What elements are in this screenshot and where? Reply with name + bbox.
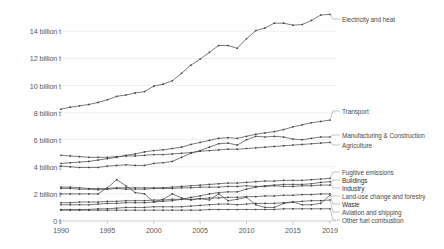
data-point	[97, 167, 99, 169]
data-point	[107, 209, 109, 211]
data-point	[320, 182, 322, 184]
series-label-other-fuel-combustion[interactable]: Other fuel combustion	[342, 217, 403, 224]
data-point	[264, 185, 266, 187]
data-point	[69, 155, 71, 157]
data-point	[227, 182, 229, 184]
data-point	[255, 133, 257, 135]
data-point	[218, 137, 220, 139]
data-point	[116, 179, 118, 181]
series-line-3	[61, 142, 330, 157]
data-point	[255, 30, 257, 32]
data-point	[236, 47, 238, 49]
data-point	[88, 193, 90, 195]
data-point	[144, 151, 146, 153]
data-point	[153, 154, 155, 156]
data-point	[97, 159, 99, 161]
data-point	[227, 142, 229, 144]
series-label-fugitive-emissions[interactable]: Fugitive emissions	[342, 169, 394, 176]
data-point	[134, 155, 136, 157]
data-point	[320, 184, 322, 186]
data-point	[153, 199, 155, 201]
series-label-aviation-and-shipping[interactable]: Aviation and shipping	[342, 209, 402, 216]
data-point	[311, 143, 313, 145]
data-point	[246, 38, 248, 40]
data-point	[301, 144, 303, 146]
y-tick-label-8: 8 billion t	[34, 108, 61, 117]
data-point	[69, 166, 71, 168]
data-point	[125, 209, 127, 211]
series-label-industry[interactable]: Industry	[342, 185, 364, 192]
data-point	[236, 186, 238, 188]
data-point	[246, 188, 248, 190]
data-point	[181, 187, 183, 189]
data-point	[246, 203, 248, 205]
data-point	[171, 193, 173, 195]
data-point	[190, 205, 192, 207]
data-point	[125, 202, 127, 204]
data-point	[97, 193, 99, 195]
data-point	[79, 105, 81, 107]
data-point	[79, 204, 81, 206]
data-point	[311, 122, 313, 124]
data-point	[227, 45, 229, 47]
data-point	[283, 194, 285, 196]
data-point	[273, 135, 275, 137]
data-point	[283, 129, 285, 131]
data-point	[301, 124, 303, 126]
series-label-waste[interactable]: Waste	[342, 201, 360, 208]
data-point	[264, 27, 266, 29]
data-point	[134, 188, 136, 190]
data-point	[125, 185, 127, 187]
data-point	[88, 104, 90, 106]
data-point	[134, 207, 136, 209]
data-point	[116, 203, 118, 205]
series-label-electricity-and-heat[interactable]: Electricity and heat	[342, 16, 395, 23]
data-point	[320, 14, 322, 16]
data-point	[134, 192, 136, 194]
data-point	[301, 201, 303, 203]
y-tick-label-6: 6 billion t	[34, 135, 61, 144]
series-label-land-use-change-and-forestry[interactable]: Land-use change and forestry	[342, 193, 426, 200]
data-point	[116, 209, 118, 211]
data-point	[162, 199, 164, 201]
data-point	[144, 188, 146, 190]
data-point	[292, 186, 294, 188]
data-point	[69, 202, 71, 204]
data-point	[190, 187, 192, 189]
data-point	[227, 137, 229, 139]
data-point	[144, 165, 146, 167]
data-point	[79, 188, 81, 190]
y-tick-label-10: 10 billion t	[30, 81, 61, 90]
data-point	[153, 188, 155, 190]
data-point	[209, 51, 211, 53]
series-line-8	[61, 194, 330, 203]
data-point	[199, 195, 201, 197]
data-point	[97, 201, 99, 203]
data-point	[162, 154, 164, 156]
data-point	[227, 196, 229, 198]
data-point	[301, 24, 303, 26]
series-label-agriculture[interactable]: Agriculture	[342, 142, 372, 149]
data-point	[209, 193, 211, 195]
data-point	[255, 147, 257, 149]
data-point	[88, 188, 90, 190]
data-point	[162, 162, 164, 164]
data-point	[264, 195, 266, 197]
data-point	[264, 203, 266, 205]
data-point	[292, 201, 294, 203]
data-point	[255, 196, 257, 198]
data-point	[69, 188, 71, 190]
data-point	[209, 204, 211, 206]
x-tick-label-2010: 2010	[239, 226, 255, 235]
data-point	[181, 152, 183, 154]
data-point	[199, 198, 201, 200]
data-point	[171, 209, 173, 211]
data-point	[292, 138, 294, 140]
data-point	[273, 184, 275, 186]
data-point	[153, 85, 155, 87]
series-label-transport[interactable]: Transport	[342, 108, 369, 115]
data-point	[134, 153, 136, 155]
series-label-manufacturing-construction[interactable]: Manufacturing & Construction	[342, 132, 425, 139]
series-label-buildings[interactable]: Buildings	[342, 177, 367, 184]
x-tick-label-2000: 2000	[146, 226, 162, 235]
